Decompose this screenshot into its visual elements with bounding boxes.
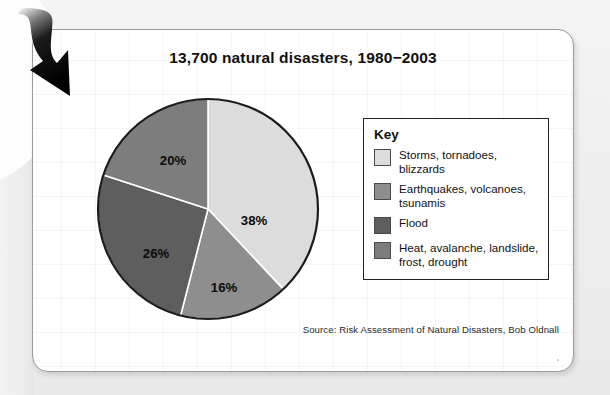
slide-card: 13,700 natural disasters, 1980−2003 38% … — [32, 29, 574, 372]
legend-label-flood: Flood — [399, 216, 428, 230]
legend-box: Key Storms, tornadoes, blizzards Earthqu… — [363, 118, 549, 280]
pie-chart: 38% 16% 26% 20% — [96, 97, 320, 321]
legend-swatch-flood — [374, 217, 391, 234]
legend-item-storms[interactable]: Storms, tornadoes, blizzards — [374, 148, 540, 175]
legend-label-earthquakes: Earthquakes, volcanoes, tsunamis — [399, 182, 540, 209]
pie-label-4: 20% — [160, 153, 187, 168]
legend-swatch-heat — [374, 242, 391, 259]
source-note: Source: Risk Assessment of Natural Disas… — [303, 324, 559, 335]
page-title: 13,700 natural disasters, 1980−2003 — [33, 49, 573, 67]
pie-label-3: 26% — [143, 246, 170, 261]
legend-title: Key — [374, 127, 540, 142]
slide-page: 13,700 natural disasters, 1980−2003 38% … — [0, 0, 610, 395]
pie-chart-svg: 38% 16% 26% 20% — [96, 97, 320, 321]
pie-label-1: 38% — [241, 213, 268, 228]
legend-swatch-earthquakes — [374, 183, 391, 200]
legend-item-earthquakes[interactable]: Earthquakes, volcanoes, tsunamis — [374, 182, 540, 209]
legend-label-heat: Heat, avalanche, landslide, frost, droug… — [399, 241, 540, 268]
legend-item-heat[interactable]: Heat, avalanche, landslide, frost, droug… — [374, 241, 540, 268]
legend-swatch-storms — [374, 149, 391, 166]
corner-mark — [557, 359, 559, 361]
pie-label-2: 16% — [211, 280, 238, 295]
legend-label-storms: Storms, tornadoes, blizzards — [399, 148, 540, 175]
legend-item-flood[interactable]: Flood — [374, 216, 540, 234]
